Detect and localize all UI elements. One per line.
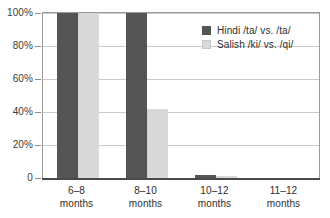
legend: Hindi /ta/ vs. /ta/ Salish /ki/ vs. /qi/ xyxy=(202,24,293,50)
y-axis-tick-label: 0 xyxy=(27,173,33,183)
y-axis-tick-label: 80% xyxy=(13,41,33,51)
legend-item-label: Salish /ki/ vs. /qi/ xyxy=(217,39,293,50)
legend-swatch-icon xyxy=(202,26,211,35)
x-axis-tick-label: 11–12months xyxy=(249,184,318,210)
x-axis-tick-line2: months xyxy=(180,197,249,210)
y-axis-tick-label: 20% xyxy=(13,140,33,150)
x-axis-tick-line2: months xyxy=(111,197,180,210)
y-axis-tick-mark xyxy=(35,178,41,179)
legend-swatch-icon xyxy=(202,40,211,49)
x-axis-tick-label: 6–8months xyxy=(42,184,111,210)
legend-item: Hindi /ta/ vs. /ta/ xyxy=(202,24,293,36)
y-axis-tick-label: 100% xyxy=(7,8,33,18)
x-axis-tick-line1: 6–8 xyxy=(68,185,85,196)
legend-item: Salish /ki/ vs. /qi/ xyxy=(202,38,293,50)
y-axis-tick-mark xyxy=(35,112,41,113)
y-axis-tick-mark xyxy=(35,46,41,47)
y-axis-tick-mark xyxy=(35,145,41,146)
bar xyxy=(78,13,99,178)
bar xyxy=(126,13,147,178)
y-axis-tick-label: 60% xyxy=(13,74,33,84)
x-axis-tick-line1: 10–12 xyxy=(200,185,228,196)
x-axis-baseline xyxy=(42,178,320,180)
bar xyxy=(57,13,78,178)
bar-group xyxy=(57,13,99,178)
bar-chart: 100%80%60%40%20%0 6–8months8–10months10–… xyxy=(0,0,330,218)
bar xyxy=(147,109,168,178)
x-axis-tick-line2: months xyxy=(249,197,318,210)
y-axis-tick-mark xyxy=(35,13,41,14)
x-axis-tick-line1: 11–12 xyxy=(270,185,298,196)
legend-item-label: Hindi /ta/ vs. /ta/ xyxy=(217,25,291,36)
bar-group xyxy=(126,13,168,178)
x-axis: 6–8months8–10months10–12months11–12month… xyxy=(42,184,320,218)
x-axis-tick-label: 8–10months xyxy=(111,184,180,210)
y-axis-tick-mark xyxy=(35,79,41,80)
y-axis: 100%80%60%40%20%0 xyxy=(0,0,42,182)
x-axis-tick-line2: months xyxy=(42,197,111,210)
x-axis-tick-label: 10–12months xyxy=(180,184,249,210)
y-axis-tick-label: 40% xyxy=(13,107,33,117)
x-axis-tick-line1: 8–10 xyxy=(134,185,157,196)
